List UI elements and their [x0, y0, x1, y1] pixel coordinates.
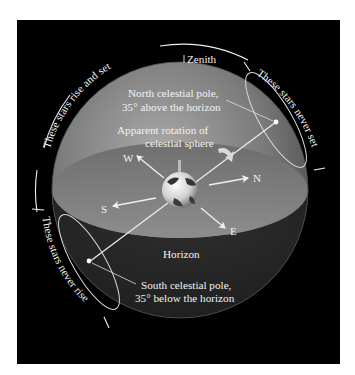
horizon-label: Horizon	[163, 248, 200, 260]
south-pole-label-line1: South celestial pole,	[141, 279, 232, 291]
south-label: S	[101, 203, 107, 215]
north-pole-label-line2: 35° above the horizon	[122, 101, 221, 113]
west-label: W	[123, 152, 134, 164]
north-pole-label-line1: North celestial pole,	[128, 87, 219, 99]
east-label: E	[230, 225, 237, 237]
south-celestial-pole-point	[87, 259, 92, 264]
celestial-sphere-diagram: These stars rise and set These stars nev…	[0, 0, 355, 375]
north-celestial-pole-point	[274, 120, 279, 125]
south-pole-label-line2: 35° below the horizon	[135, 292, 235, 304]
rotation-label-line1: Apparent rotation of	[117, 124, 209, 136]
zenith-label: Zenith	[187, 53, 217, 65]
rotation-label-line2: celestial sphere	[145, 137, 214, 149]
north-label: N	[253, 172, 261, 184]
